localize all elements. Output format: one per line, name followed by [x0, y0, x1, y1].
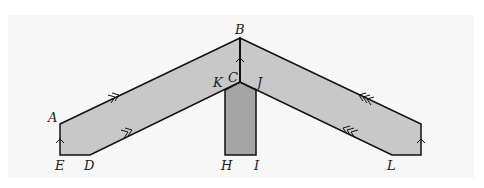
- vertical-post: [225, 82, 256, 155]
- label-b: B: [234, 22, 245, 37]
- right-rafter-band: [240, 38, 421, 155]
- label-d: D: [83, 158, 95, 173]
- label-i: I: [253, 158, 260, 173]
- left-rafter-band: [60, 38, 240, 155]
- label-h: H: [220, 158, 233, 173]
- label-k: K: [212, 75, 224, 90]
- label-c: C: [228, 70, 238, 85]
- label-l: L: [386, 158, 396, 173]
- truss-diagram: A B C K J E D H I L: [0, 0, 484, 188]
- label-a: A: [47, 110, 57, 125]
- label-e: E: [54, 158, 65, 173]
